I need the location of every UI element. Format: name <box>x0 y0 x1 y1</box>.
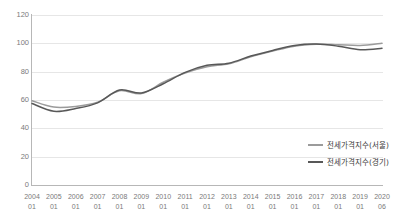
legend-swatch-gyeonggi <box>308 161 323 163</box>
series-container <box>0 0 393 221</box>
legend-label-seoul: 전세가격지수(서울) <box>327 139 389 150</box>
chart-legend: 전세가격지수(서울) 전세가격지수(경기) <box>308 136 393 170</box>
x-axis-tick-label: 202006 <box>367 192 393 211</box>
series-line-gyeonggi <box>32 44 382 111</box>
line-chart: 020406080100120 200401200501200601200701… <box>0 0 393 221</box>
legend-item-seoul[interactable]: 전세가격지수(서울) <box>308 136 393 153</box>
legend-item-gyeonggi[interactable]: 전세가격지수(경기) <box>308 153 393 170</box>
legend-swatch-seoul <box>308 144 323 146</box>
legend-label-gyeonggi: 전세가격지수(경기) <box>327 156 389 167</box>
series-line-seoul <box>32 43 382 107</box>
x-axis-tick-labels: 2004012005012006012007012008012009012010… <box>31 192 383 218</box>
